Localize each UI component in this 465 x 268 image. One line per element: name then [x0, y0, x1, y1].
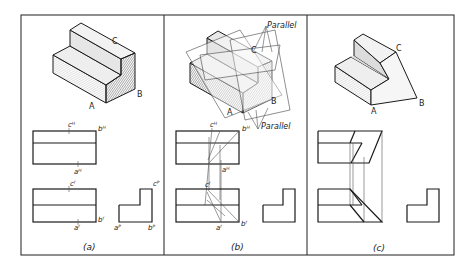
top-view-b — [176, 128, 239, 221]
label-cH: cᴴ — [68, 121, 76, 129]
side-view-c — [407, 189, 439, 222]
label-C: C — [112, 37, 118, 46]
label-cP: cᴾ — [153, 180, 160, 188]
label-aF: aᶠ — [74, 224, 80, 232]
orthographic-projection-figure: C B A cᴴ bᴴ aᴴ cᶠ bᶠ aᶠ cᴾ aᴾ bᴾ (a) — [0, 0, 465, 268]
label-cF: cᶠ — [70, 180, 76, 188]
caption-b: (b) — [231, 242, 244, 252]
side-view-b — [263, 189, 295, 222]
label-A: A — [227, 108, 233, 117]
label-aP: aᴾ — [114, 224, 121, 232]
label-cH: cᴴ — [210, 121, 218, 129]
label-A: A — [371, 107, 377, 116]
parallel-label-top: Parallel — [267, 21, 297, 30]
front-view-b — [176, 189, 239, 222]
label-B: B — [137, 90, 143, 99]
label-bF: bᶠ — [98, 216, 105, 224]
label-A: A — [89, 102, 95, 111]
label-bF: bᶠ — [241, 220, 248, 228]
isometric-block-a — [53, 23, 135, 103]
label-C: C — [251, 46, 257, 55]
isometric-block-b — [186, 26, 290, 129]
label-bH: bᴴ — [242, 125, 250, 133]
label-cF: cᶠ — [205, 181, 211, 189]
parallel-label-bottom: Parallel — [261, 122, 291, 131]
label-C: C — [396, 44, 402, 53]
label-bP: bᴾ — [148, 224, 155, 232]
label-aF: aᶠ — [216, 224, 222, 232]
side-view-a — [119, 189, 152, 222]
front-view-a — [33, 186, 96, 225]
label-bH: bᴴ — [98, 125, 106, 133]
label-aH: aᴴ — [74, 168, 82, 176]
panel-a: C B A cᴴ bᴴ aᴴ cᶠ bᶠ aᶠ cᴾ aᴾ bᴾ (a) — [33, 23, 160, 252]
isometric-block-c — [335, 34, 417, 105]
label-B: B — [271, 97, 277, 106]
panel-b: Parallel Parallel C B A cᴴ bᴴ aᴴ cᶠ bᶠ — [176, 21, 297, 252]
panel-c: C B A (c) — [318, 34, 439, 253]
top-view-c — [318, 131, 382, 222]
caption-a: (a) — [83, 242, 96, 252]
top-view-a — [33, 128, 96, 167]
label-B: B — [419, 99, 425, 108]
caption-c: (c) — [373, 243, 385, 253]
label-aH: aᴴ — [222, 166, 230, 174]
